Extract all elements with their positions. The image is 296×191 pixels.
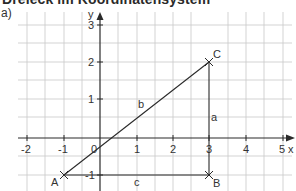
side-label-a: a — [211, 111, 218, 123]
y-axis-arrow-icon — [97, 12, 104, 20]
grid — [18, 12, 292, 191]
point-label-a: A — [51, 176, 59, 188]
y-axis — [97, 12, 104, 191]
side-b — [64, 62, 209, 175]
x-tick-label: 5 — [279, 143, 285, 155]
x-tick-label: -2 — [21, 143, 31, 155]
point-label-c: C — [213, 48, 221, 60]
y-tick-label: 2 — [88, 56, 94, 68]
x-axis — [18, 135, 295, 142]
y-axis-label: y — [88, 8, 94, 20]
x-tick-label: 2 — [170, 143, 176, 155]
x-tick-label: 4 — [243, 143, 249, 155]
coordinate-diagram: -2 -1 0 1 2 3 4 5 x 3 2 1 -1 y A B C a b… — [0, 0, 296, 191]
x-axis-arrow-icon — [286, 135, 295, 142]
y-tick-label: 3 — [88, 19, 94, 31]
y-tick-label: 1 — [88, 93, 94, 105]
side-label-b: b — [138, 98, 144, 110]
x-axis-label: x — [288, 143, 294, 155]
point-label-b: B — [213, 177, 220, 189]
side-label-c: c — [134, 176, 140, 188]
x-tick-label: -1 — [58, 143, 68, 155]
triangle — [64, 62, 209, 175]
x-tick-label: 1 — [134, 143, 140, 155]
